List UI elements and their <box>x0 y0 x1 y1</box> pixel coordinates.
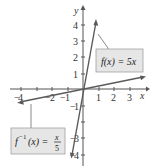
arrow-head-icon <box>140 76 146 81</box>
x-axis-label: x <box>139 90 145 101</box>
svg-text:4: 4 <box>74 150 79 161</box>
svg-text:3: 3 <box>127 92 132 103</box>
svg-text:3: 3 <box>73 36 78 47</box>
arrow-head-icon <box>94 19 99 26</box>
svg-text:1: 1 <box>74 101 79 112</box>
finv-numerator: x <box>54 133 59 142</box>
finv-denominator: 5 <box>55 144 59 153</box>
finv-superscript: −1 <box>19 133 27 141</box>
y-axis-label: y <box>73 5 79 16</box>
callout-f-inverse: f −1 (x) = x 5 <box>11 104 65 154</box>
graph: y x − 4 − 2 − 1 1 2 3 4 3 2 1 − 1 − 3 − … <box>0 0 153 168</box>
y-axis-arrow-icon <box>81 5 86 10</box>
svg-text:1: 1 <box>96 92 101 103</box>
svg-text:2: 2 <box>50 92 55 103</box>
svg-text:2: 2 <box>73 52 78 63</box>
x-axis-arrow-icon <box>146 87 150 92</box>
callout-f: f(x) = 5x <box>96 34 143 72</box>
finv-body: (x) = <box>28 136 48 148</box>
f-label: f(x) = 5x <box>101 56 137 68</box>
svg-text:2: 2 <box>111 92 116 103</box>
svg-text:4: 4 <box>73 20 78 31</box>
svg-text:1: 1 <box>73 69 78 80</box>
